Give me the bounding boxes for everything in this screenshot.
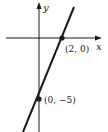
x-axis-arrow-icon [95,36,102,41]
y-axis-arrow-icon [37,2,42,9]
line-graph: y x (2, 0) (0, −5) [0,0,108,132]
y-intercept-label: (0, −5) [44,95,76,105]
x-intercept-label: (2, 0) [65,44,89,54]
x-axis-label: x [96,41,102,52]
point-x-intercept [59,35,64,40]
point-y-intercept [36,96,41,101]
plotted-line [23,7,74,132]
y-axis-label: y [42,2,49,13]
